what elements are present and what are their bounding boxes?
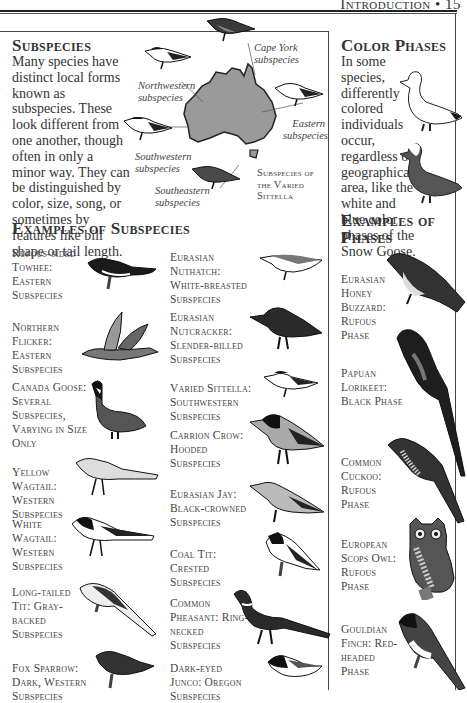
examples-subspecies-title: Examples of Subspecies <box>12 219 190 239</box>
caption-canada-goose: Canada Goose: Several Subspecies, Varyin… <box>12 380 92 450</box>
examples-phases-title: Examples of Phases <box>341 212 451 246</box>
map-label-eastern: Eastern subspecies <box>283 118 325 142</box>
caption-varied-sittella: Varied Sittella: Southwestern Subspecies <box>170 381 255 423</box>
common-pheasant-illustration <box>232 588 332 648</box>
white-wagtail-illustration <box>70 514 156 560</box>
map-label-northwestern: Northwestern subspecies <box>138 80 198 104</box>
subspecies-title: Subspecies <box>12 36 91 56</box>
caption-dark-eyed-junco: Dark-eyed Junco: Oregon Subspecies <box>170 661 255 703</box>
rufous-sided-towhee-illustration <box>86 253 158 293</box>
snow-goose-blue-illustration <box>396 140 464 206</box>
map-label-cape-york: Cape York subspecies <box>254 42 314 66</box>
european-scops-owl-illustration <box>402 518 462 600</box>
caption-long-tailed-tit: Long-tailed Tit: Gray-backed Subspecies <box>12 585 87 641</box>
gouldian-finch-illustration <box>397 612 467 690</box>
caption-european-scops-owl: European Scops Owl: Rufous Phase <box>341 537 401 593</box>
varied-sittella-illustration <box>262 367 320 401</box>
caption-eurasian-nutcracker: Eurasian Nutcracker: Slender-billed Subs… <box>170 310 255 366</box>
map-label-southwestern: Southwestern subspecies <box>135 151 195 175</box>
northern-flicker-illustration <box>80 310 160 366</box>
color-phases-title: Color Phases <box>341 36 446 56</box>
caption-gouldian-finch: Gouldian Finch: Red-headed Phase <box>341 622 401 678</box>
coal-tit-illustration <box>262 532 322 580</box>
sittella-southwestern-illustration <box>122 113 174 143</box>
sittella-cape-york-illustration <box>205 15 257 45</box>
fox-sparrow-illustration <box>94 650 156 690</box>
canada-goose-illustration <box>88 378 148 440</box>
eurasian-nutcracker-illustration <box>248 303 324 353</box>
sittella-eastern-illustration <box>273 80 325 110</box>
caption-carrion-crow: Carrion Crow: Hooded Subspecies <box>170 428 255 470</box>
map-label-southeastern: Southeastern subspecies <box>155 185 215 209</box>
caption-rufous-sided-towhee: Rufous-sided Towhee: Eastern Subspecies <box>12 246 87 302</box>
caption-northern-flicker: Northern Flicker: Eastern Subspecies <box>12 320 87 376</box>
caption-fox-sparrow: Fox Sparrow: Dark, Western Subspecies <box>12 661 87 703</box>
caption-eurasian-nuthatch: Eurasian Nuthatch: White-breasted Subspe… <box>170 250 255 306</box>
caption-eurasian-jay: Eurasian Jay: Black-crowned Subspecies <box>170 487 255 529</box>
snow-goose-white-illustration <box>396 68 464 134</box>
yellow-wagtail-illustration <box>74 453 160 499</box>
long-tailed-tit-illustration <box>78 582 158 638</box>
map-caption: Subspecies of the Varied Sittella <box>257 167 323 202</box>
common-cuckoo-illustration <box>386 437 466 525</box>
honey-buzzard-illustration <box>385 252 467 318</box>
caption-coal-tit: Coal Tit: Crested Subspecies <box>170 547 255 589</box>
dark-eyed-junco-illustration <box>266 654 324 690</box>
sittella-northwestern-illustration <box>143 43 193 73</box>
eurasian-jay-illustration <box>248 480 326 526</box>
carrion-crow-hooded-illustration <box>248 412 326 468</box>
header-rule <box>0 10 457 12</box>
eurasian-nuthatch-illustration <box>258 250 324 284</box>
